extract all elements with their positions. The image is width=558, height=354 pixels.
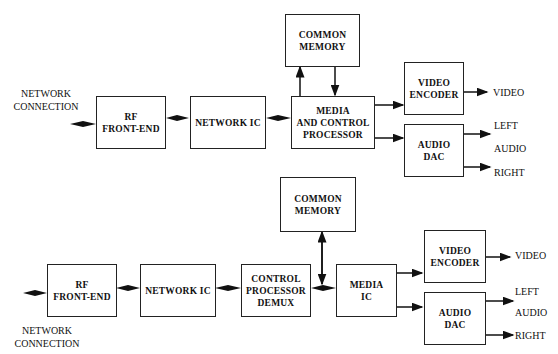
left-output-label-2: LEFT bbox=[515, 285, 539, 298]
network-connection-label-2: NETWORK CONNECTION bbox=[4, 324, 90, 350]
right-output-label-2: RIGHT bbox=[515, 329, 546, 342]
network-connection-label: NETWORK CONNECTION bbox=[5, 87, 87, 113]
rf-front-end-block-2: RF FRONT-END bbox=[47, 264, 117, 317]
left-output-label: LEFT bbox=[494, 119, 518, 132]
right-output-label: RIGHT bbox=[494, 166, 525, 179]
audio-dac-block: AUDIO DAC bbox=[404, 124, 464, 177]
control-processor-demux-block: CONTROL PROCESSOR DEMUX bbox=[241, 264, 311, 317]
media-ic-block: MEDIA IC bbox=[336, 264, 397, 317]
common-memory-block-2: COMMON MEMORY bbox=[280, 177, 356, 232]
common-memory-block: COMMON MEMORY bbox=[285, 14, 360, 67]
audio-dac-block-2: AUDIO DAC bbox=[424, 292, 486, 345]
video-output-label-2: VIDEO bbox=[515, 249, 546, 262]
network-ic-block-2: NETWORK IC bbox=[140, 264, 216, 317]
network-ic-block: NETWORK IC bbox=[190, 96, 266, 149]
media-control-processor-block: MEDIA AND CONTROL PROCESSOR bbox=[291, 96, 375, 149]
video-output-label: VIDEO bbox=[493, 86, 524, 99]
rf-front-end-block: RF FRONT-END bbox=[96, 96, 166, 149]
audio-label-2: AUDIO bbox=[515, 306, 547, 319]
video-encoder-block-2: VIDEO ENCODER bbox=[424, 230, 486, 283]
video-encoder-block: VIDEO ENCODER bbox=[404, 62, 464, 115]
audio-label: AUDIO bbox=[494, 142, 526, 155]
